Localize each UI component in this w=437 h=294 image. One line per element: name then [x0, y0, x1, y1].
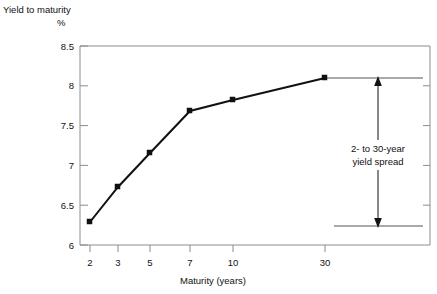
yield-spread-label-line1: 2- to 30-year: [351, 143, 405, 154]
y-tick-labels: 8.5 8 7.5 7 6.5 6: [61, 41, 74, 251]
x-tick-label: 2: [87, 257, 92, 268]
x-tick-marks: [90, 245, 325, 252]
data-point-marker: [322, 75, 327, 80]
y-tick-marks: [80, 46, 88, 245]
chart-title-unit: %: [57, 17, 66, 28]
data-point-marker: [115, 184, 120, 189]
data-point-marker: [87, 219, 92, 224]
data-point-marker: [187, 108, 192, 113]
yield-curve-chart: Yield to maturity % 8.5 8 7.5 7 6.5: [0, 0, 437, 294]
data-point-marker: [230, 97, 235, 102]
yield-spread-label-line2: yield spread: [352, 156, 403, 167]
chart-title: Yield to maturity: [3, 4, 71, 15]
x-tick-labels: 2 3 5 7 10 30: [87, 257, 330, 268]
x-tick-label: 10: [228, 257, 239, 268]
y-tick-label: 6: [69, 240, 74, 251]
x-tick-label: 5: [147, 257, 152, 268]
yield-curve-line: [90, 78, 325, 222]
y-tick-label: 7.5: [61, 120, 74, 131]
y-tick-marks-right: [423, 86, 430, 205]
x-tick-label: 3: [115, 257, 120, 268]
data-point-marker: [147, 150, 152, 155]
x-tick-label: 7: [187, 257, 192, 268]
y-tick-label: 7: [69, 160, 74, 171]
y-tick-label: 8: [69, 80, 74, 91]
chart-page: Yield to maturity % 8.5 8 7.5 7 6.5: [0, 0, 437, 294]
y-tick-label: 6.5: [61, 200, 74, 211]
data-point-markers: [87, 75, 327, 224]
x-tick-label: 30: [320, 257, 331, 268]
y-tick-label: 8.5: [61, 41, 74, 52]
x-axis-title: Maturity (years): [180, 275, 246, 286]
